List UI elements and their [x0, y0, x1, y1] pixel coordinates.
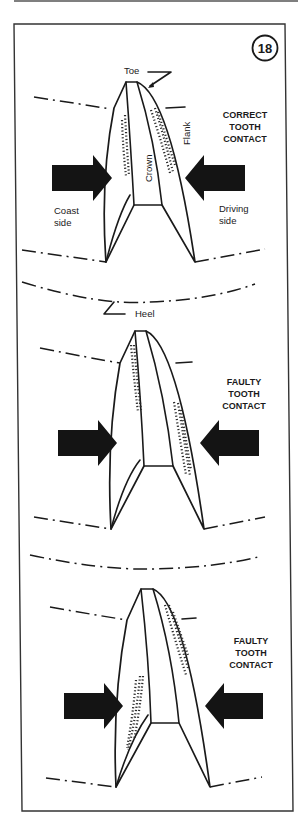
figure-number-badge: 18 [253, 36, 278, 61]
coast-side-arrow [52, 155, 112, 201]
panel-faulty-contact-1: FAULTY TOOTH CONTACT [34, 331, 266, 529]
gear-tooth-2 [110, 331, 204, 529]
caption-line1: FAULTY [234, 636, 268, 646]
pitch-line-right [182, 618, 196, 619]
root-line-left [22, 250, 106, 262]
crown-label: Crown [143, 155, 154, 182]
heel-line [22, 282, 255, 303]
pitch-line-right [166, 107, 185, 108]
gear-edge-line [30, 555, 262, 569]
coast-side-label-line1: Coast [54, 205, 79, 216]
heel-leader [104, 302, 125, 314]
pitch-line-left [40, 348, 120, 363]
root-line-left [46, 778, 116, 787]
caption-line3: CONTACT [222, 401, 266, 411]
driving-side-label-line1: Driving [219, 203, 249, 214]
coast-side-arrow [64, 683, 123, 729]
heel-label: Heel [135, 308, 155, 319]
caption-line3: CONTACT [229, 660, 273, 670]
flank-label: Flank [181, 122, 192, 145]
pitch-line-left [50, 607, 127, 620]
driving-side-arrow [200, 420, 259, 466]
caption-line2: TOOTH [229, 122, 260, 132]
pitch-line-right [176, 362, 192, 363]
caption-line3: CONTACT [223, 134, 267, 144]
driving-side-arrow [205, 683, 263, 729]
root-line-right [204, 517, 265, 529]
caption-line2: TOOTH [228, 389, 259, 399]
caption-line1: FAULTY [227, 377, 261, 387]
toe-label: Toe [124, 65, 139, 76]
caption-line2: TOOTH [235, 648, 266, 658]
pitch-line-left [34, 97, 111, 109]
figure-number: 18 [258, 41, 272, 56]
root-line-left [34, 517, 111, 529]
coast-side-label-line2: side [54, 217, 71, 228]
root-line-right [210, 777, 262, 787]
driving-side-label-line2: side [219, 215, 236, 226]
caption-line1: CORRECT [223, 110, 268, 120]
tooth-contact-diagram: 18 Toe Crown Flank Coast [0, 0, 298, 832]
coast-side-arrow [58, 420, 117, 466]
root-line-right [195, 249, 265, 262]
panel-faulty-contact-2: FAULTY TOOTH CONTACT [46, 589, 273, 787]
panel-correct-contact: Toe Crown Flank Coast side Driving side … [22, 65, 268, 262]
driving-side-arrow [185, 155, 245, 201]
toe-leader-arrowhead [148, 82, 154, 88]
